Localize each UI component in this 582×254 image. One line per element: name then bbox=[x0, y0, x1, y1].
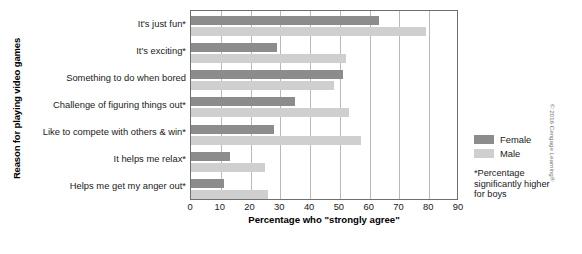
bar-group bbox=[191, 177, 459, 203]
x-tick-label-80: 80 bbox=[423, 201, 433, 212]
x-tick-label-90: 90 bbox=[453, 201, 463, 212]
bar-male bbox=[191, 108, 349, 117]
legend-label-female: Female bbox=[500, 134, 531, 145]
footnote-line-1: *Percentage bbox=[474, 168, 574, 179]
bar-female bbox=[191, 16, 379, 25]
legend: Female Male bbox=[474, 134, 531, 162]
legend-swatch-female-icon bbox=[474, 135, 494, 144]
footnote-line-2: significantly higher bbox=[474, 179, 574, 190]
plot-area bbox=[190, 10, 458, 200]
category-label: Helps me get my anger out* bbox=[10, 180, 186, 191]
bar-male bbox=[191, 163, 265, 172]
x-tick-label-40: 40 bbox=[304, 201, 314, 212]
category-label-list: It's just fun*It's exciting*Something to… bbox=[10, 10, 186, 200]
bar-male bbox=[191, 136, 361, 145]
footnote-line-3: for boys bbox=[474, 189, 574, 200]
bar-male bbox=[191, 54, 346, 63]
bar-group bbox=[191, 95, 459, 121]
category-label: Challenge of figuring things out* bbox=[10, 99, 186, 110]
footnote: *Percentage significantly higher for boy… bbox=[474, 168, 574, 200]
bar-female bbox=[191, 97, 295, 106]
category-label: It helps me relax* bbox=[10, 153, 186, 164]
bar-group bbox=[191, 123, 459, 149]
legend-swatch-male-icon bbox=[474, 149, 494, 158]
copyright-credit: © 2016 Cengage Learning® bbox=[549, 104, 556, 224]
category-label: Like to compete with others & win* bbox=[10, 126, 186, 137]
category-label: Something to do when bored bbox=[10, 72, 186, 83]
bar-group bbox=[191, 41, 459, 67]
bar-group bbox=[191, 68, 459, 94]
legend-label-male: Male bbox=[500, 148, 520, 159]
bar-male bbox=[191, 190, 268, 199]
x-tick-label-50: 50 bbox=[334, 201, 344, 212]
bar-male bbox=[191, 27, 426, 36]
x-tick-label-20: 20 bbox=[244, 201, 254, 212]
bar-male bbox=[191, 81, 334, 90]
bar-female bbox=[191, 179, 224, 188]
category-label: It's just fun* bbox=[10, 18, 186, 29]
legend-item-female: Female bbox=[474, 134, 531, 145]
bar-female bbox=[191, 70, 343, 79]
bar-female bbox=[191, 43, 277, 52]
category-label: It's exciting* bbox=[10, 45, 186, 56]
x-tick-label-10: 10 bbox=[215, 201, 225, 212]
x-tick-label-0: 0 bbox=[187, 201, 192, 212]
x-tick-label-70: 70 bbox=[393, 201, 403, 212]
bar-group bbox=[191, 14, 459, 40]
bar-female bbox=[191, 152, 230, 161]
chart-figure: Reason for playing video games It's just… bbox=[0, 0, 582, 254]
legend-item-male: Male bbox=[474, 148, 531, 159]
x-axis-tick-labels: 0102030405060708090 bbox=[190, 201, 458, 215]
x-tick-label-30: 30 bbox=[274, 201, 284, 212]
bar-female bbox=[191, 125, 274, 134]
x-axis-title: Percentage who "strongly agree" bbox=[190, 214, 458, 225]
x-tick-label-60: 60 bbox=[363, 201, 373, 212]
bar-group bbox=[191, 150, 459, 176]
